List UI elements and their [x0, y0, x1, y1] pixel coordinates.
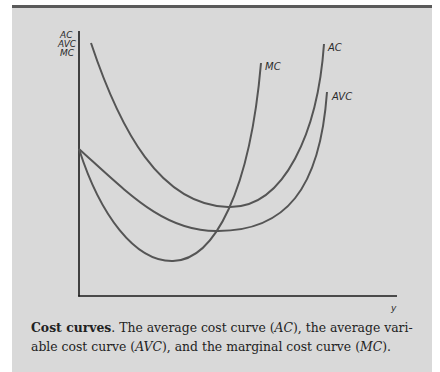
caption-mc: MC	[360, 339, 382, 354]
mc-curve	[79, 63, 261, 261]
cost-curves-chart: AC AVC MC y AC AVC MC	[0, 0, 440, 372]
caption-text: . The average cost curve (	[111, 320, 274, 335]
caption-text: ), the average vari-	[293, 320, 413, 335]
mc-label: MC	[265, 61, 281, 72]
caption-text: ).	[382, 339, 391, 354]
avc-curve	[79, 92, 327, 231]
y-axis-label-mc: MC	[60, 48, 75, 58]
caption-text: able cost curve (	[31, 339, 135, 354]
x-axis-label: y	[390, 303, 397, 313]
caption-title: Cost curves	[31, 320, 111, 335]
caption-text: ), and the marginal cost curve (	[162, 339, 360, 354]
avc-label: AVC	[331, 91, 352, 102]
figure-caption: Cost curves. The average cost curve (AC)…	[31, 318, 421, 356]
ac-curve	[91, 43, 324, 207]
ac-label: AC	[327, 42, 342, 53]
caption-ac: AC	[275, 320, 293, 335]
caption-avc: AVC	[135, 339, 162, 354]
